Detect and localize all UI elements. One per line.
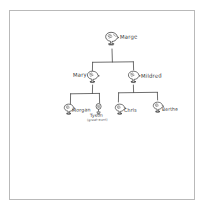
node-label-chris: Chris bbox=[124, 108, 137, 113]
node-label-marge: Marge bbox=[120, 33, 138, 40]
diagram-canvas: Marge Mary Mildred Morgan Tyson (great-a… bbox=[0, 0, 207, 211]
node-label-mildred: Mildred bbox=[141, 72, 162, 79]
node-label-bertha: Bertha bbox=[162, 106, 178, 112]
node-label-morgan: Morgan bbox=[72, 107, 91, 113]
node-sublabel-tyson: (great-aunt) bbox=[87, 118, 108, 122]
node-label-mary: Mary bbox=[73, 71, 87, 78]
page-frame bbox=[9, 10, 195, 200]
